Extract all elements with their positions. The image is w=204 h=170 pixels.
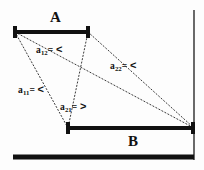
relation-a21-subscript: 21 xyxy=(65,106,72,113)
relation-a22-subscript: 22 xyxy=(115,65,122,72)
segment-a-endcap-left xyxy=(13,26,17,38)
relation-a21-operator: > xyxy=(80,100,87,112)
segment-a xyxy=(13,26,90,38)
relation-a11-operator: < xyxy=(38,83,45,95)
relation-label-a12: a12= < xyxy=(36,44,63,56)
relation-label-a21: a21= > xyxy=(60,101,87,113)
segment-a-endcap-right xyxy=(86,26,90,38)
interval-relation-diagram: A B a11= < a12= < a21= > a22= < xyxy=(0,0,204,170)
relation-label-a22: a22= < xyxy=(110,60,137,72)
relation-line-a21 xyxy=(68,32,88,128)
segment-b-endcap-right xyxy=(191,122,195,134)
segment-a-label: A xyxy=(50,10,61,25)
relation-label-a11: a11= < xyxy=(18,84,44,96)
relation-a12-subscript: 12 xyxy=(41,49,48,56)
segment-b-label: B xyxy=(128,134,138,149)
relation-a22-operator: < xyxy=(130,59,137,71)
relation-a12-operator: < xyxy=(56,43,63,55)
relation-line-a22 xyxy=(88,32,194,128)
segment-b-endcap-left xyxy=(66,122,70,134)
relation-a11-subscript: 11 xyxy=(23,89,29,96)
